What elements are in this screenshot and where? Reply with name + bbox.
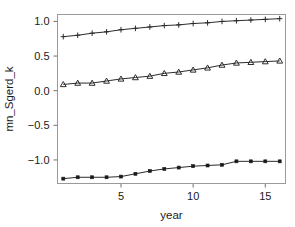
marker-plus xyxy=(191,21,196,27)
marker-dot xyxy=(148,170,151,173)
marker-dot xyxy=(105,176,108,179)
x-tick-label: 15 xyxy=(259,190,271,202)
chart-figure: 1.00.50.0−0.5−1.0 51015 year mn_Sgerd_k xyxy=(0,0,295,227)
series-upper xyxy=(61,16,283,40)
y-tick-label: 1.0 xyxy=(34,15,49,27)
marker-dot xyxy=(76,176,79,179)
marker-plus xyxy=(75,32,80,38)
marker-dot xyxy=(177,166,180,169)
series-line-middle xyxy=(63,61,279,85)
marker-plus xyxy=(277,16,282,22)
x-tick-label: 5 xyxy=(118,190,124,202)
y-tick-label: −0.5 xyxy=(28,119,50,131)
marker-plus xyxy=(219,19,224,25)
plot-frame xyxy=(58,15,286,184)
marker-plus xyxy=(205,20,210,26)
marker-dot xyxy=(91,176,94,179)
marker-dot xyxy=(163,167,166,170)
marker-plus xyxy=(90,30,95,36)
marker-dot xyxy=(206,164,209,167)
marker-dot xyxy=(249,160,252,163)
x-axis-title: year xyxy=(160,209,183,221)
marker-dot xyxy=(235,160,238,163)
y-axis-ticks: 1.00.50.0−0.5−1.0 xyxy=(28,15,58,166)
marker-plus xyxy=(176,22,181,28)
data-series-layer xyxy=(60,16,282,180)
series-lower xyxy=(62,160,281,180)
series-line-upper xyxy=(63,19,279,37)
marker-dot xyxy=(192,165,195,168)
marker-plus xyxy=(162,23,167,29)
marker-plus xyxy=(61,34,66,40)
y-tick-label: 0.5 xyxy=(34,50,49,62)
marker-plus xyxy=(234,18,239,24)
marker-plus xyxy=(118,27,123,33)
y-tick-label: −1.0 xyxy=(28,154,50,166)
x-axis-ticks: 51015 xyxy=(118,184,271,202)
series-middle xyxy=(60,58,282,87)
marker-plus xyxy=(248,17,253,23)
marker-plus xyxy=(133,26,138,32)
marker-dot xyxy=(119,175,122,178)
marker-dot xyxy=(278,160,281,163)
marker-dot xyxy=(264,160,267,163)
series-line-lower xyxy=(63,161,279,178)
x-tick-label: 10 xyxy=(187,190,199,202)
marker-dot xyxy=(134,172,137,175)
line-chart: 1.00.50.0−0.5−1.0 51015 year mn_Sgerd_k xyxy=(0,0,295,227)
marker-dot xyxy=(62,177,65,180)
marker-dot xyxy=(221,163,224,166)
marker-plus xyxy=(104,29,109,35)
marker-plus xyxy=(263,17,268,23)
y-tick-label: 0.0 xyxy=(34,85,49,97)
y-axis-title: mn_Sgerd_k xyxy=(3,66,15,131)
marker-plus xyxy=(147,24,152,30)
